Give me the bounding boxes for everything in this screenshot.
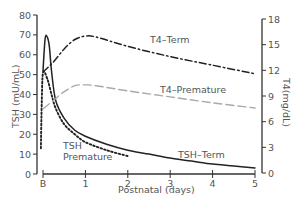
y-right-tick-label: 9 [268,91,274,102]
tsh-t4-chart: 010203040506070800369121518B12345 T4–Ter… [0,0,298,208]
y-left-tick-label: 80 [19,10,31,21]
y-right-tick-label: 6 [268,116,274,127]
y-right-tick-label: 18 [268,14,280,25]
y-axis-right-title: T4(mg/dL) [281,77,292,127]
series-tsh-premature [41,71,128,156]
y-right-tick-label: 12 [268,65,280,76]
label-t4-premature: T4–Premature [159,84,226,95]
y-axis-left-title: TSH (mU/mL) [10,65,21,129]
y-left-tick-label: 60 [19,49,31,60]
x-axis-title: Postnatal (days) [118,184,195,195]
y-right-tick-label: 15 [268,39,280,50]
y-left-tick-label: 20 [19,129,31,140]
x-tick-label: B [40,178,47,189]
x-tick-label: 5 [252,178,258,189]
label-t4-term: T4–Term [149,34,190,45]
y-right-tick-label: 3 [268,142,274,153]
y-right-tick-label: 0 [268,168,274,179]
x-tick-label: 1 [82,178,88,189]
y-left-tick-label: 0 [25,169,31,180]
label-tsh-premature-2: Premature [63,151,113,162]
x-tick-label: 4 [210,178,216,189]
series-t4-term [43,36,255,74]
y-left-tick-label: 70 [19,29,31,40]
label-tsh-premature-1: TSH [62,140,82,151]
label-tsh-term: TSH–Term [177,149,225,160]
y-left-tick-label: 10 [19,149,31,160]
inline-labels: T4–Term T4–Premature TSH Premature TSH–T… [10,34,292,195]
